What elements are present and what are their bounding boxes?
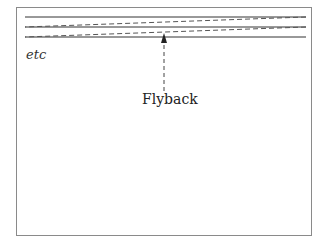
raster-diagram [0,0,331,246]
etc-label: etc [26,47,46,62]
retrace-line [25,17,306,27]
retrace-line [25,27,306,37]
flyback-label: Flyback [142,91,198,107]
flyback-arrow-head [161,33,167,43]
